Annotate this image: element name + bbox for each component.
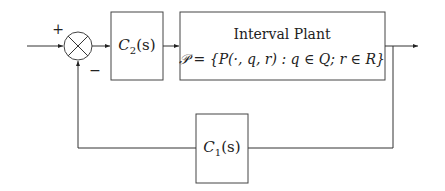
- c1-name: C: [203, 138, 214, 156]
- block-diagram: [0, 0, 445, 191]
- c1-arg: (s): [221, 138, 240, 156]
- plant-title: Interval Plant: [233, 26, 330, 42]
- c2-arg: (s): [136, 36, 155, 54]
- plant-block: [180, 12, 385, 80]
- minus-sign: −: [89, 62, 101, 78]
- plus-sign: +: [52, 21, 64, 37]
- c2-name: C: [118, 36, 129, 54]
- plant-set-definition: 𝒫 = {P(·, q, r) : q ∈ Q; r ∈ R}: [179, 51, 385, 68]
- c2-label: C2(s): [118, 36, 155, 56]
- summing-junction: [64, 32, 92, 60]
- c1-label: C1(s): [203, 138, 240, 158]
